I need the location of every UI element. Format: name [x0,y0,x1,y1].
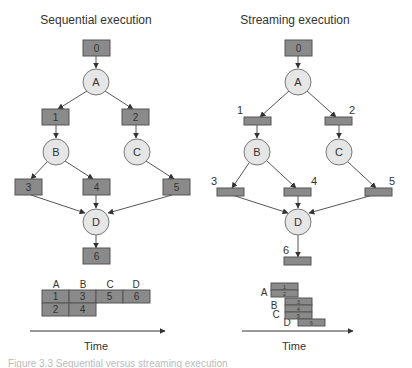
svg-text:0: 0 [296,43,302,54]
streaming-stage-c: C [326,139,352,165]
svg-text:5: 5 [107,291,113,302]
svg-text:6: 6 [134,291,140,302]
sequential-panel: Sequential execution 0 1 2 [15,13,190,352]
svg-text:A: A [261,287,268,298]
sequential-box-6: 6 [83,248,110,264]
svg-text:3: 3 [211,175,217,187]
svg-text:D: D [92,216,100,228]
svg-text:C: C [272,309,279,320]
svg-text:2: 2 [349,104,355,116]
svg-text:B: B [80,279,87,290]
sequential-title: Sequential execution [40,13,151,27]
svg-text:B: B [253,146,260,158]
svg-text:3: 3 [80,291,86,302]
svg-text:2: 2 [283,291,286,297]
svg-text:1: 1 [53,291,59,302]
svg-text:4: 4 [94,182,100,193]
svg-text:A: A [294,76,302,88]
streaming-box-2: 2 [325,104,355,125]
svg-text:1: 1 [53,112,59,123]
sequential-stage-b: B [43,139,69,165]
streaming-box-1: 1 [237,104,271,125]
streaming-time-label: Time [282,340,306,352]
svg-text:6: 6 [94,251,100,262]
sequential-stage-d: D [83,209,109,235]
sequential-box-5: 5 [163,179,190,195]
sequential-stage-c: C [124,139,150,165]
streaming-panel: Streaming execution 0 1 2 [211,13,395,352]
streaming-box-6: 6 [283,244,311,265]
svg-text:B: B [52,146,59,158]
svg-text:6: 6 [310,320,313,326]
execution-diagram: Sequential execution 0 1 2 [0,0,412,368]
streaming-gantt: A B C D 1 2 3 4 5 6 [261,283,325,328]
svg-text:3: 3 [297,299,300,305]
svg-text:1: 1 [237,104,243,116]
svg-text:4: 4 [297,306,300,312]
sequential-box-2: 2 [122,109,149,125]
streaming-stage-b: B [244,139,270,165]
svg-text:C: C [106,279,113,290]
svg-text:5: 5 [297,313,300,319]
sequential-box-1: 1 [42,109,69,125]
svg-text:1: 1 [283,284,286,290]
sequential-box-4: 4 [83,179,110,195]
svg-text:C: C [335,146,343,158]
svg-text:4: 4 [311,175,317,187]
svg-text:0: 0 [94,43,100,54]
svg-text:4: 4 [80,304,86,315]
svg-text:D: D [132,279,139,290]
svg-text:D: D [294,216,302,228]
sequential-gantt: A B C D 1 3 5 6 2 4 [42,279,150,316]
svg-text:2: 2 [53,304,59,315]
streaming-box-4: 4 [284,175,317,196]
sequential-stage-a: A [83,69,109,95]
sequential-box-0: 0 [83,40,110,56]
streaming-title: Streaming execution [240,13,349,27]
streaming-box-0: 0 [285,40,312,56]
streaming-stage-d: D [285,209,311,235]
svg-text:C: C [133,146,141,158]
streaming-box-5: 5 [365,175,395,196]
svg-text:5: 5 [174,182,180,193]
svg-text:A: A [92,76,100,88]
svg-text:6: 6 [283,244,289,256]
svg-text:3: 3 [26,182,32,193]
sequential-time-label: Time [84,340,108,352]
sequential-box-3: 3 [15,179,42,195]
svg-text:5: 5 [389,175,395,187]
streaming-stage-a: A [285,69,311,95]
svg-text:A: A [53,279,60,290]
svg-text:2: 2 [133,112,139,123]
figure-caption: Figure 3.3 Sequential versus streaming e… [8,358,228,368]
